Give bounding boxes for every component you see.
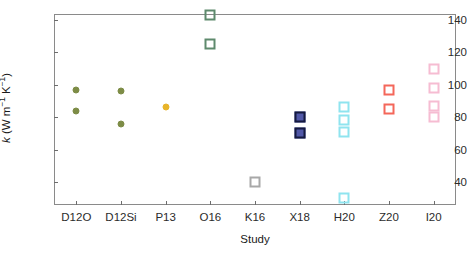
y-axis-tick-mark — [54, 85, 58, 86]
x-axis-tick-label-d12o: D12O — [61, 211, 91, 223]
data-point-h20 — [339, 102, 350, 113]
x-axis-tick-mark — [300, 201, 301, 205]
x-axis-tick-label-k16: K16 — [245, 211, 265, 223]
data-point-d12o — [73, 107, 80, 114]
x-axis-tick-mark — [121, 201, 122, 205]
data-point-d12o — [73, 86, 80, 93]
data-point-d12si — [118, 88, 125, 95]
data-point-h20 — [339, 193, 350, 204]
x-axis-tick-label-z20: Z20 — [379, 211, 399, 223]
data-point-x18 — [294, 112, 305, 123]
x-axis-tick-label-d12si: D12Si — [105, 211, 136, 223]
y-axis-tick-mark — [54, 20, 58, 21]
data-point-o16 — [205, 39, 216, 50]
y-axis-tick-label: 40 — [422, 176, 467, 188]
y-axis-tick-mark — [54, 117, 58, 118]
x-axis-tick-label-p13: P13 — [155, 211, 175, 223]
data-point-h20 — [339, 115, 350, 126]
data-point-i20 — [428, 83, 439, 94]
data-point-x18 — [294, 128, 305, 139]
y-axis-tick-label: 60 — [422, 144, 467, 156]
y-axis-tick-mark — [54, 52, 58, 53]
y-axis-tick-label: 120 — [422, 46, 467, 58]
y-axis-tick-mark — [54, 150, 58, 151]
x-axis-tick-label-h20: H20 — [334, 211, 355, 223]
data-point-z20 — [384, 84, 395, 95]
x-axis-tick-mark — [210, 201, 211, 205]
data-point-z20 — [384, 104, 395, 115]
x-axis-tick-label-i20: I20 — [426, 211, 442, 223]
data-point-i20 — [428, 112, 439, 123]
thermal-conductivity-scatter-chart: 140120100806040 D12OD12SiP13O16K16X18H20… — [0, 0, 467, 260]
x-axis-label: Study — [240, 233, 269, 245]
x-axis-tick-label-x18: X18 — [289, 211, 309, 223]
x-axis-tick-label-o16: O16 — [199, 211, 221, 223]
x-axis-tick-mark — [434, 201, 435, 205]
x-axis-tick-mark — [389, 201, 390, 205]
y-axis-label: k (W m−1 K−1) — [0, 73, 12, 143]
data-point-k16 — [250, 177, 261, 188]
y-axis-tick-mark — [54, 182, 58, 183]
data-point-o16 — [205, 10, 216, 21]
x-axis-tick-mark — [76, 201, 77, 205]
y-axis-tick-label: 140 — [422, 14, 467, 26]
data-point-i20 — [428, 63, 439, 74]
x-axis-tick-mark — [255, 201, 256, 205]
data-point-i20 — [428, 100, 439, 111]
data-point-h20 — [339, 126, 350, 137]
data-point-d12si — [118, 120, 125, 127]
data-point-p13 — [162, 104, 169, 111]
x-axis-tick-mark — [166, 201, 167, 205]
